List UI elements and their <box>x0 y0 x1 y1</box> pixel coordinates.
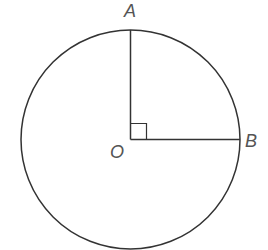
circle-right-angle-diagram: A B O <box>0 0 268 250</box>
label-b: B <box>245 131 257 151</box>
label-o: O <box>110 142 124 162</box>
label-a: A <box>123 1 136 21</box>
right-angle-marker <box>131 124 147 140</box>
